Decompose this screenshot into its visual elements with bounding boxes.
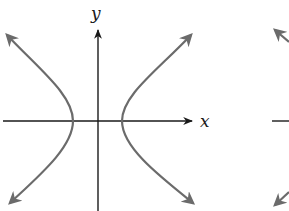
partial-upper-arrow [275, 30, 289, 42]
diagram-canvas: x y [0, 0, 289, 211]
left-hyperbola-branch [7, 35, 73, 203]
right-hyperbola-branch [122, 35, 193, 203]
x-axis-label: x [200, 111, 210, 131]
hyperbola-diagram: x y [0, 0, 289, 211]
partial-lower-arrow [275, 192, 289, 205]
y-axis-label: y [90, 3, 101, 23]
partial-right-figure [272, 30, 289, 205]
